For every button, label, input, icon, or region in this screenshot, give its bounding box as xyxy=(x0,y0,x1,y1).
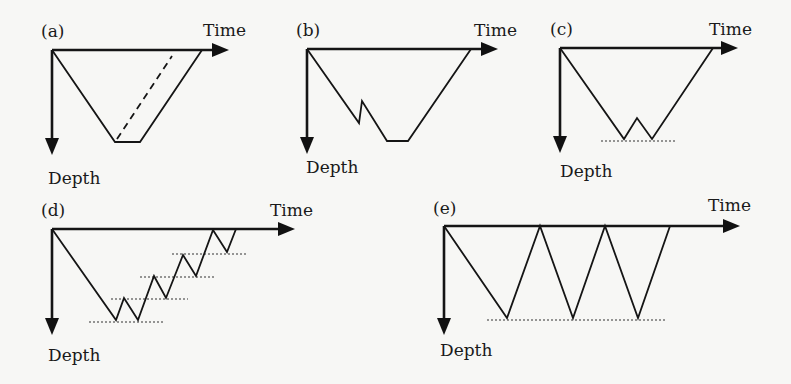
panel-d-label: (d) xyxy=(41,200,65,220)
panel-e-dive-profile xyxy=(444,226,670,318)
panel-c-time-arrowhead xyxy=(721,41,738,55)
panel-c: (c) Time Depth xyxy=(550,19,752,181)
panel-c-depth-label: Depth xyxy=(560,161,612,181)
panel-c-dive-profile xyxy=(560,48,713,139)
panel-a-label: (a) xyxy=(41,21,64,41)
panel-a-dive-profile xyxy=(52,50,202,142)
panel-e-depth-arrowhead xyxy=(437,318,451,335)
panel-e-depth-label: Depth xyxy=(440,340,492,360)
dive-profile-figure: (a) Time Depth (b) Time Depth (c) Time D… xyxy=(0,0,791,384)
panel-a-dashed-ascent xyxy=(117,56,172,139)
panel-b-time-arrowhead xyxy=(481,42,498,56)
panel-b-depth-label: Depth xyxy=(306,157,358,177)
panel-a-depth-arrowhead xyxy=(45,138,59,155)
panel-e: (e) Time Depth xyxy=(433,195,751,360)
panel-e-time-arrowhead xyxy=(723,219,740,233)
panel-c-depth-arrowhead xyxy=(553,136,567,153)
panel-a-time-arrowhead xyxy=(212,43,229,57)
panel-d-depth-arrowhead xyxy=(45,318,59,335)
panel-b-depth-arrowhead xyxy=(300,137,314,154)
panel-d-time-label: Time xyxy=(270,200,313,220)
panel-e-label: (e) xyxy=(433,198,456,218)
panel-b-label: (b) xyxy=(296,20,320,40)
panel-d-time-arrowhead xyxy=(278,222,295,236)
panel-b-time-label: Time xyxy=(474,20,517,40)
panel-d-depth-label: Depth xyxy=(48,345,100,365)
panel-a-depth-label: Depth xyxy=(48,168,100,188)
panel-a-time-label: Time xyxy=(203,20,246,40)
panel-b: (b) Time Depth xyxy=(296,20,517,177)
panel-c-label: (c) xyxy=(550,19,573,39)
panel-c-time-label: Time xyxy=(709,19,752,39)
panel-a: (a) Time Depth xyxy=(41,20,246,188)
panel-e-time-label: Time xyxy=(708,195,751,215)
panel-b-dive-profile xyxy=(307,49,471,141)
panel-d-dive-profile xyxy=(52,229,236,320)
panel-d: (d) Time Depth xyxy=(41,200,313,365)
